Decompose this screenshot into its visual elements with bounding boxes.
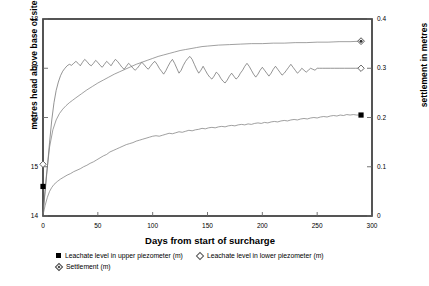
y-axis-left-tick-label: 15 [16, 163, 38, 170]
legend-row: Leachate level in upper piezometer (m)Le… [56, 250, 406, 261]
y-axis-right-tick-label: 0.3 [377, 64, 399, 71]
x-axis-tick-label: 300 [361, 222, 383, 229]
legend-item-label: Settlement (m) [66, 261, 111, 272]
x-axis-tick-label: 250 [306, 222, 328, 229]
y-axis-left-tick-label: 14 [16, 212, 38, 219]
y-axis-right-tick-label: 0.1 [377, 163, 399, 170]
x-axis-tick-label: 50 [87, 222, 109, 229]
legend-item-label: Leachate level in lower piezometer (m) [207, 250, 324, 261]
y-axis-right-title: settlement in metres [419, 0, 429, 155]
legend-row: Settlement (m) [56, 261, 406, 272]
x-axis-tick-label: 0 [32, 222, 54, 229]
legend-item[interactable]: Leachate level in upper piezometer (m) [56, 250, 183, 261]
legend-item[interactable]: Leachate level in lower piezometer (m) [197, 250, 324, 261]
x-axis-tick-label: 200 [251, 222, 273, 229]
legend-item-label: Leachate level in upper piezometer (m) [65, 250, 183, 261]
y-axis-left-tick-label: 18 [16, 15, 38, 22]
y-axis-right-tick-label: 0.4 [377, 15, 399, 22]
legend-filled-square-icon [56, 253, 61, 258]
legend-item[interactable]: Settlement (m) [56, 261, 111, 272]
x-axis-tick-label: 150 [197, 222, 219, 229]
y-axis-left-tick-label: 17 [16, 64, 38, 71]
y-axis-right-tick-label: 0 [377, 212, 399, 219]
y-axis-right-tick-label: 0.2 [377, 114, 399, 121]
legend-dotted-diamond-icon [55, 262, 63, 270]
legend-open-diamond-icon [196, 251, 204, 259]
x-axis-tick-label: 100 [142, 222, 164, 229]
y-axis-left-tick-label: 16 [16, 114, 38, 121]
chart-legend: Leachate level in upper piezometer (m)Le… [56, 250, 406, 272]
